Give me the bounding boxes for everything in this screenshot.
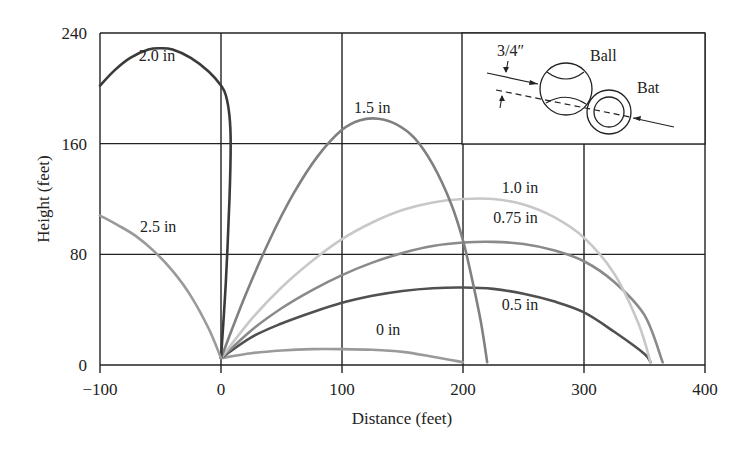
trajectory-curve-0-75-in xyxy=(221,242,663,362)
trajectory-chart: 0 in0.5 in0.75 in1.0 in1.5 in2.0 in2.5 i… xyxy=(0,0,737,451)
x-axis-label: Distance (feet) xyxy=(352,409,453,428)
curve-label: 2.5 in xyxy=(140,218,176,235)
curve-label: 2.0 in xyxy=(139,47,175,64)
trajectory-curve-1-5-in xyxy=(221,118,487,362)
inset-ball-label: Ball xyxy=(590,47,617,64)
inset-bat-label: Bat xyxy=(637,79,660,96)
x-tick-label: 400 xyxy=(692,380,718,399)
y-tick-label: 80 xyxy=(70,245,87,264)
curve-label: 1.0 in xyxy=(502,179,538,196)
y-tick-label: 240 xyxy=(62,24,88,43)
x-tick-label: 100 xyxy=(329,380,355,399)
ball-bat-inset: 3/4″ Ball Bat xyxy=(462,33,705,144)
trajectory-curve-1-0-in xyxy=(221,198,651,362)
trajectory-curve-2-5-in xyxy=(100,216,221,358)
y-tick-label: 0 xyxy=(79,356,88,375)
y-axis-label: Height (feet) xyxy=(34,155,53,242)
x-tick-label: −100 xyxy=(82,380,117,399)
x-tick-label: 200 xyxy=(450,380,476,399)
inset-offset-label: 3/4″ xyxy=(497,42,524,59)
curve-label: 0 in xyxy=(376,321,400,338)
x-tick-label: 300 xyxy=(571,380,597,399)
curve-label: 0.5 in xyxy=(502,296,538,313)
curve-label: 0.75 in xyxy=(493,209,537,226)
x-tick-label: 0 xyxy=(217,380,226,399)
trajectory-curve-2-0-in xyxy=(100,48,231,358)
y-tick-label: 160 xyxy=(62,135,88,154)
curve-label: 1.5 in xyxy=(354,99,390,116)
